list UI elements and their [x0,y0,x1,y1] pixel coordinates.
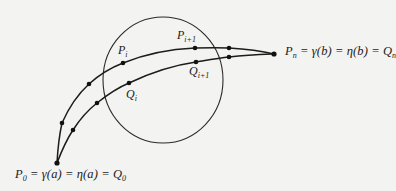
eta-curve [57,54,274,163]
neighbourhood-circle [103,17,223,143]
end-point [271,51,276,56]
label-start-main: P [15,167,23,181]
gamma-curve [57,48,274,163]
point-q-i [127,81,132,86]
label-end-point: Pn = γ(b) = η(b) = Qn [285,45,396,60]
label-end-rest: = γ(b) = η(b) = Q [297,44,392,58]
label-q-i-main: Q [126,87,135,101]
label-start-point: P0 = γ(a) = η(a) = Q0 [15,168,126,183]
label-q-i: Qi [126,88,137,103]
start-point [54,160,59,165]
label-q-i1-main: Q [189,64,198,78]
point-p-i [121,61,126,66]
label-p-i: Pi [118,44,128,59]
label-q-i-plus-1: Qi+1 [189,65,209,80]
label-p-i1-sub: i+1 [184,35,196,44]
label-q-i-sub: i [135,94,137,103]
eta-point-2 [95,101,100,106]
label-p-i-plus-1: Pi+1 [177,29,196,44]
label-start-rest: = γ(a) = η(a) = Q [27,167,122,181]
eta-point-5 [227,55,232,60]
label-end-main: P [285,44,293,58]
label-end-sub2: n [392,51,396,60]
gamma-point-2 [87,82,92,87]
point-p-i-plus-1 [193,46,198,51]
label-start-sub2: 0 [122,174,126,183]
eta-point-1 [71,128,76,133]
label-p-i-sub: i [125,50,127,59]
gamma-point-1 [60,121,65,126]
label-q-i1-sub: i+1 [198,71,210,80]
gamma-point-5 [227,46,232,51]
